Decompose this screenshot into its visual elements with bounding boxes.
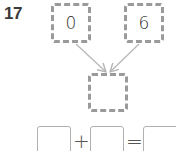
addend-1-input[interactable] (37, 126, 71, 151)
part-left-box: 0 (51, 3, 91, 43)
part-right-box: 6 (124, 3, 164, 43)
equals-sign: = (126, 131, 143, 151)
arrow-left-icon (76, 44, 105, 71)
arrow-right-icon (111, 44, 139, 71)
whole-answer-box[interactable] (88, 73, 128, 112)
addend-2-input[interactable] (90, 126, 124, 151)
sum-input[interactable] (143, 126, 176, 151)
plus-sign: + (73, 131, 90, 151)
